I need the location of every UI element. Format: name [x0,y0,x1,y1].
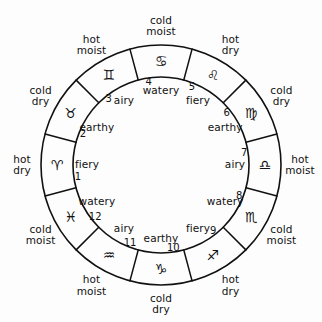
sector-divider [223,227,246,250]
quality-label-scorpio: coldmoist [267,223,297,246]
quality-label-aquarius: hotmoist [77,274,107,297]
sector-number-gemini: 3 [106,94,112,105]
sector-divider [76,227,99,250]
zodiac-glyph-aquarius: ♒ [103,248,116,262]
quality-label-gemini: hotmoist [77,33,107,56]
zodiac-glyph-virgo: ♍ [245,106,258,120]
sector-number-aquarius: 11 [124,238,137,249]
element-label-capricorn: earthy [144,233,179,244]
quality-line-2: dry [222,45,240,56]
quality-line-2: moist [146,26,176,37]
element-label-taurus: earthy [79,122,114,133]
quality-label-sagittarius: hotdry [222,274,240,297]
sector-number-virgo: 6 [224,107,230,118]
quality-line-2: moist [26,235,56,246]
element-label-leo: fiery [186,95,210,106]
quality-line-2: dry [30,96,52,107]
sector-number-leo: 5 [189,81,195,92]
quality-line-2: dry [150,304,172,315]
quality-line-2: dry [13,165,31,176]
sector-divider [246,188,277,196]
sector-divider [130,250,138,281]
element-label-scorpio: watery [207,196,244,207]
zodiac-glyph-gemini: ♊ [103,68,116,82]
sector-divider [184,49,192,80]
sector-number-libra: 7 [241,147,247,158]
quality-label-libra: hotmoist [285,154,315,177]
sector-divider [45,188,76,196]
sector-divider [246,134,277,142]
zodiac-glyph-aries: ♈ [51,158,64,172]
sector-divider [130,49,138,80]
element-label-libra: airy [225,159,245,170]
quality-label-capricorn: colddry [150,293,172,316]
quality-line-2: dry [270,96,292,107]
zodiac-glyph-scorpio: ♏ [245,210,258,224]
zodiac-glyph-cancer: ♋ [155,54,168,68]
sector-divider [76,80,99,103]
zodiac-glyph-pisces: ♓ [65,210,78,224]
quality-line-2: moist [77,285,107,296]
quality-line-2: dry [222,285,240,296]
element-label-virgo: earthy [208,122,243,133]
quality-label-aries: hotdry [13,154,31,177]
quality-label-pisces: coldmoist [26,223,56,246]
zodiac-glyph-taurus: ♉ [65,106,78,120]
zodiac-glyph-leo: ♌ [207,68,220,82]
quality-line-2: moist [267,235,297,246]
zodiac-glyph-sagittarius: ♐ [207,248,220,262]
sector-number-aries: 1 [75,172,81,183]
quality-line-2: moist [285,165,315,176]
sector-number-pisces: 12 [89,212,102,223]
quality-line-2: moist [77,45,107,56]
sector-divider [184,250,192,281]
sector-number-sagittarius: 9 [210,225,216,236]
quality-label-leo: hotdry [222,33,240,56]
element-label-cancer: watery [143,85,180,96]
quality-label-cancer: coldmoist [146,15,176,38]
inner-circle [73,77,249,253]
element-label-aries: fiery [75,159,99,170]
element-label-gemini: airy [114,95,134,106]
element-label-aquarius: airy [114,223,134,234]
zodiac-glyph-libra: ♎ [259,158,272,172]
sector-divider [223,80,246,103]
sector-divider [45,134,76,142]
zodiac-wheel-diagram: 1♈fieryhotdry2♉earthycolddry3♊airyhotmoi… [0,0,322,322]
zodiac-glyph-capricorn: ♑ [155,262,168,276]
quality-label-taurus: colddry [30,84,52,107]
quality-label-virgo: colddry [270,84,292,107]
element-label-sagittarius: fiery [186,223,210,234]
element-label-pisces: watery [79,196,116,207]
